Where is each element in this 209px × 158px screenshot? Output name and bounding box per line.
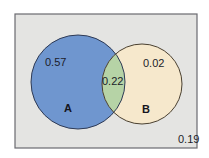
set-a-only-value: 0.57 — [45, 56, 66, 68]
set-b-label: B — [142, 103, 150, 115]
set-a-label: A — [64, 102, 72, 114]
venn-diagram: 0.57 0.22 0.02 A B 0.19 — [0, 0, 209, 158]
set-b-only-value: 0.02 — [143, 57, 164, 69]
intersection-value: 0.22 — [102, 75, 123, 87]
outside-value: 0.19 — [178, 133, 199, 145]
